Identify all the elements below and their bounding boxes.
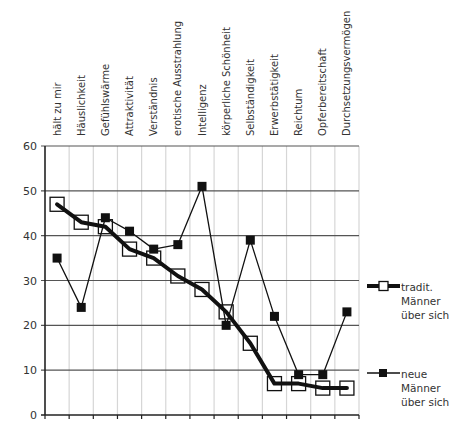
category-label: Verständnis xyxy=(148,77,159,136)
filled-square-marker xyxy=(342,307,351,316)
filled-square-marker xyxy=(318,370,327,379)
filled-square-marker-icon xyxy=(367,367,401,379)
y-tick-label: 40 xyxy=(23,230,37,243)
legend-label-neue: neue Männer über sich xyxy=(401,367,465,409)
category-label: Reichtum xyxy=(293,89,304,136)
y-tick-label: 50 xyxy=(23,185,37,198)
filled-square-marker xyxy=(101,213,110,222)
y-axis-tick-labels: 0102030405060 xyxy=(23,140,37,422)
y-tick-label: 30 xyxy=(23,275,37,288)
legend-label-tradit: tradit. Männer über sich xyxy=(401,280,465,322)
y-tick-label: 20 xyxy=(23,319,37,332)
category-label: Durchsetzungsvermögen xyxy=(341,11,352,136)
y-tick-label: 60 xyxy=(23,140,37,153)
category-label: hält zu mir xyxy=(52,81,63,136)
filled-square-marker xyxy=(294,370,303,379)
filled-square-marker xyxy=(125,227,134,236)
category-label: Erwerbstätigkeit xyxy=(269,54,280,136)
category-label: Intelligenz xyxy=(197,84,208,136)
filled-square-marker xyxy=(77,303,86,312)
data-series xyxy=(50,182,354,395)
filled-square-marker xyxy=(246,236,255,245)
series-tradit xyxy=(50,197,354,395)
category-label: Attraktivität xyxy=(124,76,135,136)
filled-square-marker xyxy=(198,182,207,191)
filled-square-marker xyxy=(222,321,231,330)
category-label: erotische Ausstrahlung xyxy=(172,21,183,136)
category-labels: hält zu mirHäuslichkeitGefühlswärmeAttra… xyxy=(52,11,353,136)
y-tick-label: 0 xyxy=(30,409,37,422)
filled-square-marker xyxy=(53,254,62,263)
category-label: Gefühlswärme xyxy=(100,64,111,136)
y-tick-label: 10 xyxy=(23,364,37,377)
category-label: körperliche Schönheit xyxy=(221,27,232,136)
filled-square-marker xyxy=(173,240,182,249)
category-label: Häuslichkeit xyxy=(76,75,87,136)
category-label: Opferbereitschaft xyxy=(317,48,328,136)
filled-square-marker xyxy=(270,312,279,321)
open-square-marker-icon xyxy=(367,280,401,292)
category-label: Selbständigkeit xyxy=(245,59,256,136)
filled-square-marker xyxy=(149,245,158,254)
